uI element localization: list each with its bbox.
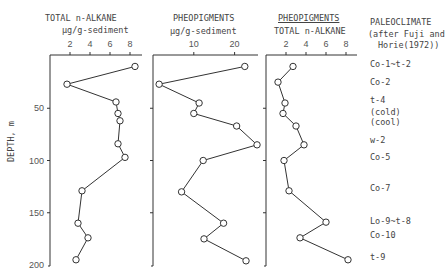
data-point xyxy=(220,220,226,226)
depth-tick-label: 100 xyxy=(29,156,44,166)
x-tick-label: 8 xyxy=(343,39,348,49)
panel-total-n-alkane: 246850100150200 xyxy=(29,39,142,270)
paleoclimate-source-line1: (after Fuji and xyxy=(368,29,445,39)
x-tick-label: 6 xyxy=(107,39,112,49)
panel1-unit: µg/g-sediment xyxy=(62,25,129,35)
panel1-title: TOTAL n-ALKANE xyxy=(45,13,117,23)
data-point xyxy=(297,235,303,241)
panel-pheopigments: 1020 xyxy=(150,39,260,266)
x-tick-label: 4 xyxy=(87,39,92,49)
data-point xyxy=(132,63,138,69)
x-tick-label: 2 xyxy=(67,39,72,49)
data-point xyxy=(323,219,329,225)
x-tick-label: 20 xyxy=(230,39,240,49)
panel-ratio: 2468 xyxy=(263,39,357,266)
data-point xyxy=(75,220,81,226)
panel3-numerator: PHEOPIGMENTS xyxy=(278,13,339,23)
data-line xyxy=(67,66,135,259)
panel2-title: PHEOPIGMENTS xyxy=(173,13,234,23)
x-tick-label: 6 xyxy=(323,39,328,49)
paleoclimate-label: (cold) xyxy=(370,107,401,117)
panel3-denominator: TOTAL n-ALKANE xyxy=(274,26,346,36)
paleoclimate-label: t-9 xyxy=(370,252,385,262)
depth-tick-label: 150 xyxy=(29,208,44,218)
data-point xyxy=(242,63,248,69)
paleoclimate-label: Co-10 xyxy=(370,230,396,240)
x-tick-label: 4 xyxy=(303,39,308,49)
data-point xyxy=(178,189,184,195)
data-line xyxy=(159,66,257,260)
data-point xyxy=(275,79,281,85)
data-point xyxy=(191,110,197,116)
data-point xyxy=(122,154,128,160)
paleoclimate-label: (cool) xyxy=(370,117,401,127)
data-point xyxy=(254,142,260,148)
data-point xyxy=(156,81,162,87)
data-line xyxy=(278,66,348,259)
paleoclimate-label: Lo-9~t-8 xyxy=(370,216,411,226)
data-point xyxy=(115,110,121,116)
data-point xyxy=(280,110,286,116)
data-point xyxy=(73,257,79,263)
paleoclimate-label: Co-7 xyxy=(370,183,390,193)
data-point xyxy=(282,100,288,106)
data-point xyxy=(196,100,202,106)
x-tick-label: 10 xyxy=(189,39,199,49)
paleoclimate-title: PALEOCLIMATE xyxy=(370,17,431,27)
x-tick-label: 2 xyxy=(283,39,288,49)
data-point xyxy=(243,258,249,264)
depth-tick-label: 200 xyxy=(29,260,44,270)
paleoclimate-label: Co-1~t-2 xyxy=(370,59,411,69)
paleoclimate-label: w-2 xyxy=(370,135,385,145)
depth-tick-label: 50 xyxy=(34,103,44,113)
x-tick-label: 8 xyxy=(127,39,132,49)
data-point xyxy=(290,63,296,69)
y-axis-label: DEPTH, m xyxy=(6,121,16,162)
data-point xyxy=(85,235,91,241)
data-point xyxy=(301,142,307,148)
data-point xyxy=(79,188,85,194)
data-point xyxy=(281,157,287,163)
data-point xyxy=(345,257,351,263)
data-point xyxy=(115,141,121,147)
data-point xyxy=(64,81,70,87)
paleoclimate-label: Co-2 xyxy=(370,77,390,87)
paleoclimate-label: t-4 xyxy=(370,95,385,105)
paleoclimate-source-line2: Horie(1972)) xyxy=(378,40,439,50)
panel2-unit: µg/g-sediment xyxy=(170,26,237,36)
data-point xyxy=(293,123,299,129)
data-point xyxy=(117,118,123,124)
paleoclimate-label: Co-5 xyxy=(370,152,390,162)
data-point xyxy=(113,99,119,105)
data-point xyxy=(200,157,206,163)
data-point xyxy=(201,236,207,242)
data-point xyxy=(286,188,292,194)
data-point xyxy=(233,123,239,129)
